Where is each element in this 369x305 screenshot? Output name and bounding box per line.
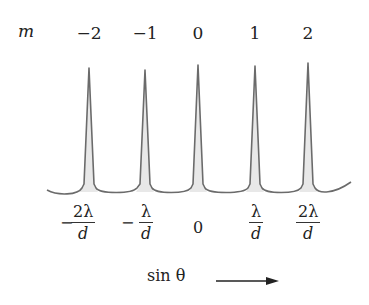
- position-label-minus-1: λ d: [139, 202, 153, 243]
- fraction-denominator: d: [71, 223, 95, 243]
- intensity-curve: [0, 0, 369, 305]
- fraction-numerator: λ: [139, 202, 153, 223]
- axis-label-sin-theta: sin θ: [147, 266, 185, 285]
- position-label-plus-1: λ d: [249, 202, 263, 243]
- fraction-denominator: d: [249, 223, 263, 243]
- position-label-minus-2: 2λ d: [71, 202, 95, 243]
- fraction-numerator: 2λ: [71, 202, 95, 223]
- minus-sign: −: [121, 213, 134, 232]
- right-arrow-icon: [216, 277, 279, 285]
- position-label-zero: 0: [193, 218, 203, 237]
- fraction-numerator: λ: [249, 202, 263, 223]
- fraction-numerator: 2λ: [296, 202, 320, 223]
- fraction-denominator: d: [139, 223, 153, 243]
- fraction-denominator: d: [296, 223, 320, 243]
- position-label-plus-2: 2λ d: [296, 202, 320, 243]
